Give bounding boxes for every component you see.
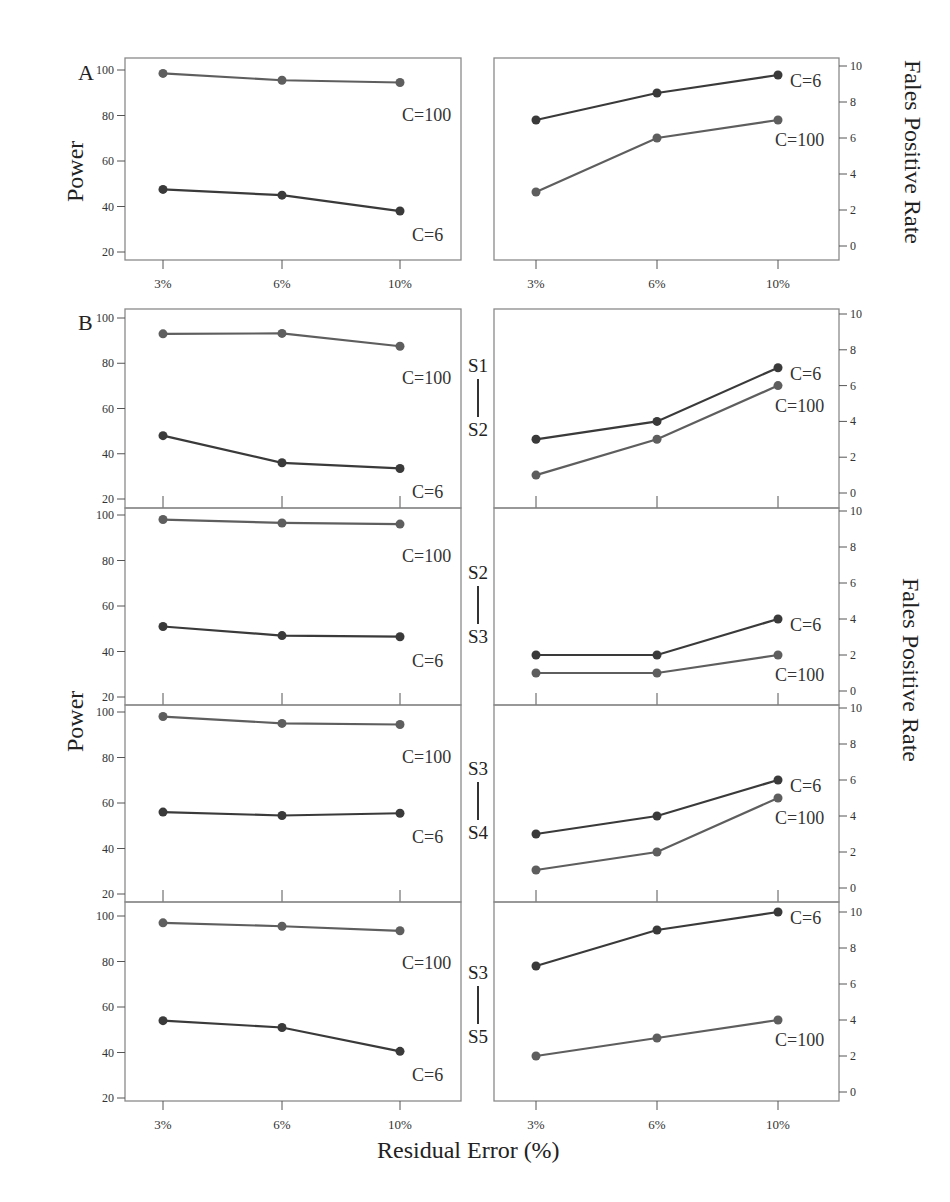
y-tick-label: 20 [102, 887, 114, 901]
comparison-connector [477, 379, 479, 417]
data-point [159, 329, 168, 338]
y-tick-label: 10 [850, 905, 862, 919]
data-point [774, 71, 783, 80]
chart-B-S3-S5-power: 204060801003%6%10%C=100C=6 [96, 902, 461, 1132]
x-tick-label: 10% [766, 276, 790, 291]
data-point [278, 811, 287, 820]
data-point [396, 520, 405, 529]
series-label: C=6 [790, 776, 821, 796]
y-tick-label: 40 [102, 200, 114, 214]
x-axis-title: Residual Error (%) [377, 1137, 560, 1164]
data-point [278, 518, 287, 527]
data-point [396, 720, 405, 729]
series-label: C=100 [775, 808, 824, 828]
series-line-C100 [536, 120, 778, 192]
data-point [396, 926, 405, 935]
plot-frame [125, 902, 461, 1101]
data-point [159, 1016, 168, 1025]
data-point [653, 89, 662, 98]
data-point [278, 922, 287, 931]
comparison-connector [477, 782, 479, 820]
y-tick-label: 40 [102, 1046, 114, 1060]
comparison-top: S2 [458, 562, 498, 584]
plot-frame [494, 902, 839, 1101]
plot-frame [125, 705, 461, 902]
power-axis-title-a: Power [62, 141, 89, 202]
y-tick-label: 4 [850, 612, 856, 626]
data-point [653, 134, 662, 143]
x-tick-label: 3% [154, 276, 172, 291]
series-label: C=6 [790, 615, 821, 635]
data-point [396, 809, 405, 818]
series-label: C=6 [412, 482, 443, 502]
series-line-C6 [536, 912, 778, 966]
y-tick-label: 100 [96, 705, 114, 719]
data-point [532, 116, 541, 125]
data-point [159, 918, 168, 927]
y-tick-label: 6 [850, 131, 856, 145]
series-label: C=100 [402, 953, 451, 973]
y-tick-label: 40 [102, 645, 114, 659]
data-point [278, 719, 287, 728]
chart-B-S1-S2-fpr: 0246810C=6C=100 [494, 307, 862, 508]
plot-frame [125, 309, 461, 508]
series-line-C6 [536, 780, 778, 834]
comparison-label-s1-s2: S1 S2 [458, 355, 498, 441]
data-point [396, 78, 405, 87]
data-point [653, 435, 662, 444]
y-tick-label: 20 [102, 245, 114, 259]
data-point [653, 812, 662, 821]
comparison-connector [477, 986, 479, 1024]
data-point [278, 458, 287, 467]
data-point [774, 776, 783, 785]
series-label: C=6 [790, 71, 821, 91]
y-tick-label: 80 [102, 554, 114, 568]
data-point [532, 188, 541, 197]
comparison-label-s3-s4: S3 S4 [458, 758, 498, 844]
chart-A-power: 204060801003%6%10%C=100C=6 [96, 58, 461, 291]
y-tick-label: 20 [102, 1091, 114, 1105]
series-label: C=6 [790, 364, 821, 384]
data-point [159, 712, 168, 721]
data-point [532, 866, 541, 875]
y-tick-label: 6 [850, 773, 856, 787]
data-point [532, 830, 541, 839]
x-tick-label: 6% [648, 276, 666, 291]
y-tick-label: 6 [850, 977, 856, 991]
comparison-connector [477, 586, 479, 624]
series-line-C6 [536, 619, 778, 655]
data-point [774, 363, 783, 372]
y-tick-label: 20 [102, 492, 114, 506]
y-tick-label: 2 [850, 845, 856, 859]
series-label: C=100 [402, 546, 451, 566]
data-point [653, 926, 662, 935]
y-tick-label: 80 [102, 356, 114, 370]
y-tick-label: 8 [850, 540, 856, 554]
x-tick-label: 6% [273, 1117, 291, 1132]
y-tick-label: 2 [850, 1049, 856, 1063]
data-point [774, 381, 783, 390]
series-label: C=100 [775, 396, 824, 416]
data-point [396, 342, 405, 351]
y-tick-label: 6 [850, 379, 856, 393]
series-label: C=100 [402, 368, 451, 388]
y-tick-label: 10 [850, 307, 862, 321]
data-point [396, 464, 405, 473]
data-point [278, 1023, 287, 1032]
chart-B-S2-S3-power: 20406080100C=100C=6 [96, 508, 461, 705]
x-tick-label: 6% [273, 276, 291, 291]
comparison-top: S3 [458, 758, 498, 780]
x-tick-label: 6% [648, 1117, 666, 1132]
chart-B-S3-S4-power: 20406080100C=100C=6 [96, 705, 461, 902]
comparison-bottom: S4 [458, 822, 498, 844]
data-point [532, 1052, 541, 1061]
x-tick-label: 10% [388, 1117, 412, 1132]
data-point [653, 669, 662, 678]
series-line-C100 [536, 798, 778, 870]
series-label: C=6 [790, 908, 821, 928]
comparison-bottom: S5 [458, 1026, 498, 1048]
x-tick-label: 3% [527, 276, 545, 291]
chart-A-fpr: 02468103%6%10%C=6C=100 [494, 58, 862, 291]
plot-frame [494, 705, 839, 902]
series-label: C=100 [775, 130, 824, 150]
